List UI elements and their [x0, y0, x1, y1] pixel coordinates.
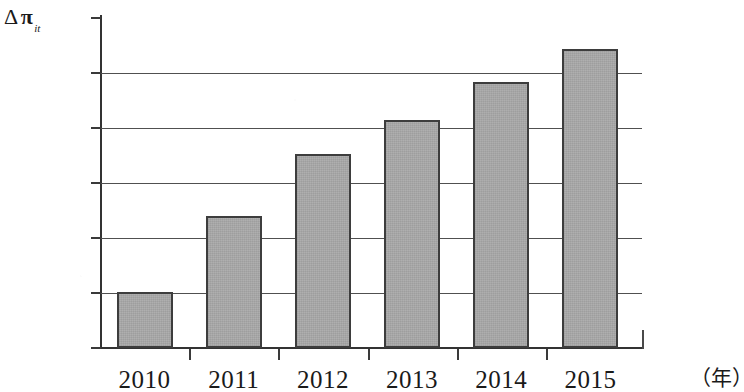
bar: [562, 49, 618, 348]
bar: [206, 216, 262, 348]
gridline: [100, 73, 642, 74]
bar: [117, 292, 173, 348]
x-tick-mark: [368, 349, 370, 360]
x-tick-label: 2012: [278, 367, 368, 392]
bar: [384, 120, 440, 348]
bar: [295, 154, 351, 348]
x-tick-label: 2014: [456, 367, 546, 392]
x-axis-unit-label: （年）: [690, 368, 744, 389]
y-tick-mark: [91, 127, 101, 129]
plot-area: 00.10.20.30.40.50.6 20102011201220132014…: [100, 18, 635, 348]
x-tick-label: 2011: [189, 367, 279, 392]
x-tick-label: 2013: [367, 367, 457, 392]
x-tick-mark: [546, 349, 548, 360]
y-tick-mark: [91, 292, 101, 294]
y-tick-mark: [91, 347, 101, 349]
x-axis-right-cap: [642, 330, 644, 349]
gridline: [100, 238, 642, 239]
x-tick-mark: [189, 349, 191, 360]
y-tick-mark: [91, 17, 101, 19]
gridline: [100, 128, 642, 129]
x-tick-mark: [278, 349, 280, 360]
gridline: [100, 293, 642, 294]
y-tick-mark: [91, 72, 101, 74]
y-tick-mark: [91, 182, 101, 184]
bar: [473, 82, 529, 348]
x-tick-label: 2015: [545, 367, 635, 392]
y-axis-title-subscript: it: [34, 22, 40, 34]
gridline: [100, 183, 642, 184]
y-axis-title-delta: Δ: [4, 4, 19, 29]
x-tick-mark: [457, 349, 459, 360]
y-axis-title: Δπit: [4, 6, 39, 31]
y-axis-title-pi: π: [19, 4, 34, 29]
y-tick-mark: [91, 237, 101, 239]
x-tick-label: 2010: [100, 367, 190, 392]
